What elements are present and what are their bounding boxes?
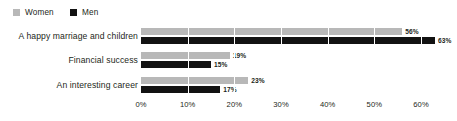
bar-row-men: 15%	[141, 61, 421, 68]
category-label: Financial success	[0, 52, 138, 69]
x-axis-tick-label: 40%	[320, 99, 336, 110]
bar-group: Financial success 19% 15%	[0, 52, 457, 69]
category-label: A happy marriage and children	[0, 28, 138, 45]
bar-women[interactable]	[141, 52, 230, 59]
x-axis: 0%10%20%30%40%50%60%	[141, 99, 421, 113]
bar-men[interactable]	[141, 37, 435, 44]
bar-women[interactable]	[141, 28, 402, 35]
bar-row-women: 23%	[141, 77, 421, 84]
x-axis-tick-label: 30%	[273, 99, 289, 110]
bar-row-men: 63%	[141, 37, 421, 44]
bar-men[interactable]	[141, 86, 220, 93]
bar-row-women: 56%	[141, 28, 421, 35]
bar-pair: 56% 63%	[141, 28, 421, 45]
bar-group: An interesting career 23% 17%	[0, 77, 457, 94]
bar-women[interactable]	[141, 77, 248, 84]
x-axis-tick-label: 0%	[135, 99, 146, 110]
x-axis-tick-label: 10%	[180, 99, 196, 110]
bar-value-men: 15%	[214, 60, 228, 69]
bar-pair: 19% 15%	[141, 52, 421, 69]
category-label: An interesting career	[0, 77, 138, 94]
x-axis-tick-label: 60%	[413, 99, 429, 110]
bar-pair: 23% 17%	[141, 77, 421, 94]
bar-men[interactable]	[141, 61, 211, 68]
x-axis-tick-label: 20%	[227, 99, 243, 110]
x-axis-tick-label: 50%	[367, 99, 383, 110]
bar-chart: Women Men A happy marriage and children …	[0, 0, 457, 121]
bar-value-women: 56%	[405, 27, 419, 36]
bar-value-men: 17%	[223, 85, 237, 94]
bar-group: A happy marriage and children 56% 63%	[0, 28, 457, 45]
bar-value-women: 19%	[233, 51, 247, 60]
bar-row-women: 19%	[141, 52, 421, 59]
bar-value-men: 63%	[438, 36, 452, 45]
bar-value-women: 23%	[251, 76, 265, 85]
bar-row-men: 17%	[141, 86, 421, 93]
